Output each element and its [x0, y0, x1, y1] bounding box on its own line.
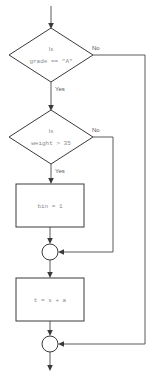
flowchart-svg: Is grade == "A" Is weight > 35 bin = 1 t… — [0, 0, 152, 377]
flowchart-canvas: Is grade == "A" Is weight > 35 bin = 1 t… — [0, 0, 152, 377]
edge-label-weight-yes: Yes — [55, 168, 65, 174]
decision-grade-line2: grade == "A" — [29, 58, 72, 65]
process-bin-label: bin = 1 — [37, 203, 63, 210]
edge-label-grade-yes: Yes — [55, 86, 65, 92]
decision-grade-line1: Is — [49, 46, 54, 52]
edge-merge1-to-sum — [47, 260, 53, 278]
node-decision-weight[interactable]: Is weight > 35 — [9, 110, 93, 164]
edge-grade-yes-to-weight — [48, 82, 54, 111]
node-merge-connector-1[interactable] — [42, 244, 58, 260]
edge-label-weight-no: No — [92, 127, 100, 133]
node-process-sum[interactable]: t = s + a — [16, 278, 84, 321]
edge-label-grade-no: No — [92, 45, 100, 51]
edge-merge2-to-exit — [47, 352, 53, 371]
node-process-bin[interactable]: bin = 1 — [16, 184, 84, 227]
edge-entry-to-grade — [48, 6, 54, 29]
edge-sum-to-merge2 — [47, 321, 53, 336]
edge-bin-to-merge1 — [47, 227, 53, 244]
node-merge-connector-2[interactable] — [42, 336, 58, 352]
decision-weight-line2: weight > 35 — [31, 140, 71, 147]
process-sum-label: t = s + a — [34, 297, 67, 304]
node-decision-grade[interactable]: Is grade == "A" — [9, 28, 93, 82]
decision-weight-line1: Is — [49, 128, 54, 134]
edge-weight-yes-to-bin — [48, 164, 54, 184]
